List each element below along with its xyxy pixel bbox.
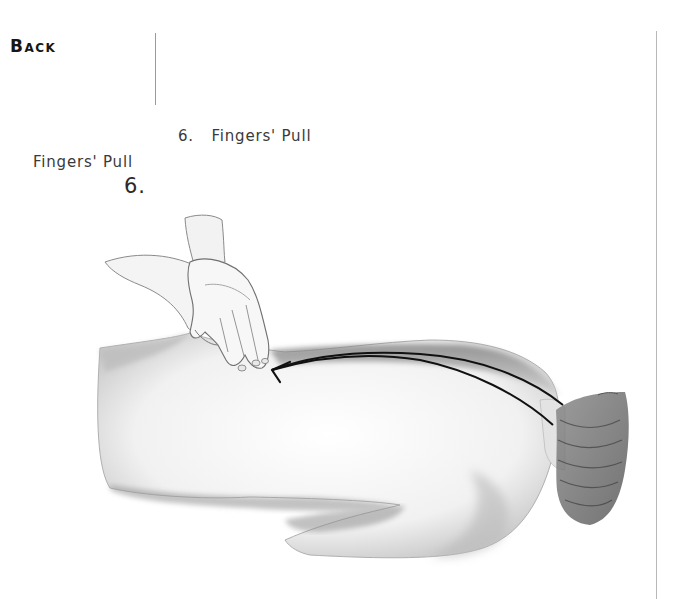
- massage-illustration: [0, 0, 677, 599]
- body-figure: [98, 333, 565, 558]
- head-hair: [556, 392, 629, 525]
